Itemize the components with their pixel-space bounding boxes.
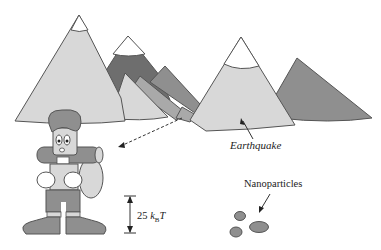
bedroll-end (95, 147, 103, 163)
hiker-figure (23, 110, 106, 234)
nanoparticle-1 (235, 212, 246, 221)
hiker-boot-right (66, 217, 106, 234)
dashed-arrow-head-icon (118, 142, 125, 148)
energy-label: 25 kBT (137, 210, 166, 224)
nanoparticle-3 (250, 222, 269, 233)
backpack-bag (79, 158, 103, 198)
diagram-canvas: Earthquake (0, 0, 381, 250)
nanoparticle-2 (230, 227, 242, 237)
energy-arrow-down-icon (127, 226, 133, 233)
energy-scale: 25 kBT (124, 196, 166, 233)
dashed-arrow-line (123, 118, 182, 145)
hiker-hand-left (37, 172, 55, 188)
mountain-earthquake-snow (224, 37, 259, 69)
hiker-nose (60, 148, 65, 152)
hiker-boot-left (23, 217, 60, 234)
earthquake-label: Earthquake (229, 139, 281, 151)
hiker-hand-right (64, 172, 82, 188)
mountain-dark-back-snow (113, 36, 145, 56)
nanoparticles-arrow-head-icon (259, 206, 264, 213)
nanoparticles-arrow-line (261, 194, 270, 209)
energy-arrow-up-icon (127, 196, 133, 203)
nanoparticles-label: Nanoparticles (244, 178, 302, 189)
